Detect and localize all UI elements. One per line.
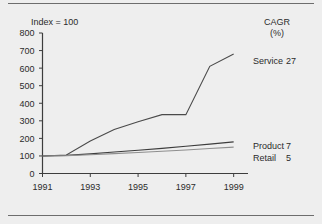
cagr-header-label: CAGR (264, 17, 291, 27)
chart-figure: Index = 100 CAGR (%) 0100200300400500600… (0, 0, 322, 224)
x-tick-label: 1991 (32, 182, 52, 192)
x-tick-label: 1993 (80, 182, 100, 192)
cagr-header-units-label: (%) (270, 28, 284, 38)
y-tick-label: 600 (19, 64, 34, 74)
y-tick-label: 0 (29, 169, 34, 179)
y-tick-label: 800 (19, 28, 34, 38)
y-axis-tick-labels: 0100200300400500600700800 (19, 28, 34, 179)
y-tick-label: 200 (19, 134, 34, 144)
series-label-service: Service (253, 56, 283, 66)
x-tick-label: 1995 (128, 182, 148, 192)
y-tick-label: 400 (19, 99, 34, 109)
cagr-value-service: 27 (286, 56, 296, 66)
index-note-label: Index = 100 (31, 17, 78, 27)
data-series-group (43, 54, 234, 156)
series-legend-group: Service27Product7Retail5 (253, 56, 296, 163)
y-tick-label: 300 (19, 116, 34, 126)
y-tick-label: 100 (19, 151, 34, 161)
series-line-service (43, 54, 234, 156)
line-chart: Index = 100 CAGR (%) 0100200300400500600… (0, 0, 322, 224)
y-tick-label: 500 (19, 81, 34, 91)
x-tick-label: 1997 (176, 182, 196, 192)
y-tick-label: 700 (19, 46, 34, 56)
cagr-value-retail: 5 (286, 153, 291, 163)
series-label-product: Product (253, 141, 285, 151)
plot-wrapper: Index = 100 CAGR (%) 0100200300400500600… (0, 0, 322, 224)
x-tick-label: 1999 (224, 182, 244, 192)
x-axis-tick-labels: 19911993199519971999 (32, 182, 243, 192)
cagr-value-product: 7 (286, 141, 291, 151)
series-label-retail: Retail (253, 153, 276, 163)
